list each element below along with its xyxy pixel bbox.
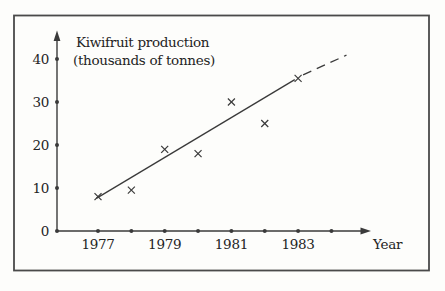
y-tick-label: 30	[32, 94, 49, 110]
y-tick-dot	[55, 100, 59, 104]
chart-figure: 0102030401977197919811983 Kiwifruit prod…	[0, 0, 445, 291]
y-tick-label: 20	[32, 137, 49, 153]
x-tick-dot	[263, 229, 267, 233]
chart-title: Kiwifruit production (thousands of tonne…	[73, 34, 215, 69]
x-tick-dot	[96, 229, 100, 233]
x-tick-label: 1977	[81, 236, 114, 252]
chart-title-line2: (thousands of tonnes)	[73, 52, 215, 70]
y-tick-dot	[55, 229, 59, 233]
x-tick-dot	[129, 229, 133, 233]
x-tick-dot	[229, 229, 233, 233]
x-tick-label: 1979	[148, 236, 181, 252]
trend-line-dashed	[303, 55, 346, 75]
x-tick-dot	[296, 229, 300, 233]
x-tick-dot	[196, 229, 200, 233]
y-tick-dot	[55, 143, 59, 147]
x-axis-label: Year	[373, 236, 402, 252]
x-tick-dot	[163, 229, 167, 233]
chart-title-line1: Kiwifruit production	[73, 34, 215, 52]
y-tick-dot	[55, 57, 59, 61]
x-tick-label: 1981	[215, 236, 248, 252]
x-tick-dot	[329, 229, 333, 233]
y-tick-dot	[55, 186, 59, 190]
trend-line-solid	[96, 80, 294, 199]
y-axis-arrow-icon	[54, 31, 61, 42]
x-axis-arrow-icon	[361, 228, 372, 235]
y-tick-label: 0	[41, 223, 49, 239]
x-tick-label: 1983	[282, 236, 315, 252]
y-tick-label: 40	[32, 51, 49, 67]
y-tick-label: 10	[32, 180, 49, 196]
